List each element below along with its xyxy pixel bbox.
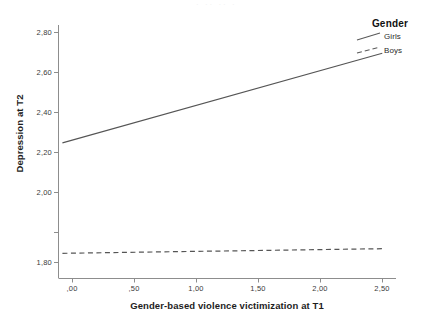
x-tick-marks [73, 279, 383, 283]
y-tick-label-260: 2,60 [22, 68, 52, 77]
x-tick-label-250: 2,50 [362, 284, 402, 293]
x-axis-title: Gender-based violence victimization at T… [58, 300, 396, 311]
series-line-boys [62, 249, 382, 254]
legend-swatch-solid-icon [356, 30, 382, 43]
legend-label-boys: Boys [384, 46, 402, 55]
x-tick-label-050: ,50 [114, 284, 154, 293]
legend-item-girls[interactable]: Girls [352, 30, 438, 43]
y-tick-label-240: 2,40 [22, 108, 52, 117]
y-tick-label-280: 2,80 [22, 28, 52, 37]
legend: Gender Girls Boys [352, 18, 438, 57]
x-tick-label-150: 1,50 [238, 284, 278, 293]
y-tick-label-200: 2,00 [22, 188, 52, 197]
legend-swatch-dashed-icon [356, 44, 382, 57]
y-axis-title: Depression at T2 [14, 74, 25, 194]
x-tick-label-100: 1,00 [176, 284, 216, 293]
y-tick-marks [54, 33, 59, 263]
x-tick-label-000: ,00 [52, 284, 92, 293]
legend-item-boys[interactable]: Boys [352, 44, 438, 57]
legend-label-girls: Girls [384, 32, 401, 41]
series-line-girls [62, 53, 382, 143]
y-tick-label-180: 1,80 [22, 258, 52, 267]
legend-title: Gender [354, 18, 426, 29]
x-tick-label-200: 2,00 [300, 284, 340, 293]
chart-canvas: · ·· ·· · 2,80 2,6 [0, 0, 438, 328]
y-tick-label-220: 2,20 [22, 148, 52, 157]
